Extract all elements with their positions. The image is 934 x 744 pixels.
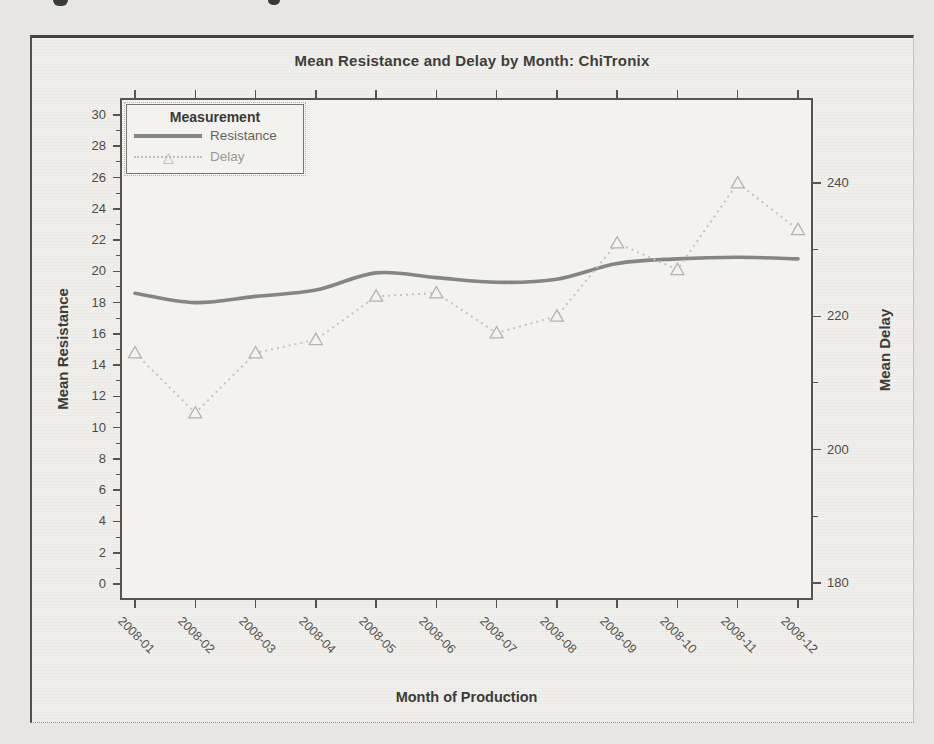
x-axis-tick: [315, 600, 317, 608]
left-axis-minor-tick: [116, 255, 120, 256]
x-axis-top-tick: [436, 90, 438, 98]
left-axis-title: Mean Resistance: [54, 288, 71, 410]
left-axis-minor-tick: [116, 505, 120, 506]
x-axis-tick: [797, 600, 799, 608]
left-tick-label: 4: [66, 512, 106, 530]
right-axis-tick: [813, 449, 821, 451]
delay-line-swatch: △: [134, 156, 202, 158]
delay-triangle-marker: [671, 263, 684, 274]
left-axis-tick: [113, 583, 120, 585]
left-axis-tick: [113, 396, 120, 398]
left-axis-tick: [113, 521, 120, 523]
delay-triangle-marker: [731, 176, 744, 187]
left-axis-tick: [113, 489, 120, 491]
x-axis-tick: [616, 600, 618, 608]
left-axis-minor-tick: [116, 130, 120, 131]
x-axis-tick: [677, 600, 679, 608]
delay-triangle-marker: [129, 346, 142, 357]
left-axis-tick: [113, 302, 120, 304]
x-axis-top-tick: [677, 90, 679, 98]
left-tick-label: 6: [66, 481, 106, 499]
legend-entry-label: Delay: [210, 149, 245, 164]
delay-triangle-marker: [550, 310, 563, 321]
left-tick-label: 2: [66, 544, 106, 562]
x-axis-top-tick: [375, 90, 377, 98]
figure-page: Mean Resistance and Delay by Month: ChiT…: [0, 0, 934, 744]
delay-triangle-marker: [370, 290, 383, 301]
legend-title: Measurement: [127, 109, 303, 125]
left-axis-minor-tick: [116, 443, 120, 444]
left-axis-tick: [113, 458, 120, 460]
legend: Measurement Resistance △ Delay: [126, 104, 304, 174]
left-axis-minor-tick: [116, 224, 120, 225]
chart-title: Mean Resistance and Delay by Month: ChiT…: [30, 52, 914, 69]
left-axis-tick: [113, 364, 120, 366]
x-axis-top-tick: [315, 90, 317, 98]
delay-triangle-marker: [490, 326, 503, 337]
left-axis-minor-tick: [116, 193, 120, 194]
x-axis-tick: [255, 600, 257, 608]
cropped-caption-remnant: [53, 0, 68, 6]
left-tick-label: 0: [66, 575, 106, 593]
left-axis-minor-tick: [116, 380, 120, 381]
right-axis-tick: [813, 582, 821, 584]
left-axis-tick: [113, 239, 120, 241]
left-axis-tick: [113, 271, 120, 273]
x-axis-top-tick: [255, 90, 257, 98]
x-axis-title: Month of Production: [120, 689, 813, 705]
legend-entry-delay: △ Delay: [127, 146, 303, 167]
x-axis-top-tick: [616, 90, 618, 98]
x-axis-tick: [556, 600, 558, 608]
right-tick-label: 180: [827, 574, 871, 592]
x-axis-top-tick: [797, 90, 799, 98]
right-axis-minor-tick: [813, 516, 818, 517]
left-tick-label: 28: [66, 137, 106, 155]
left-tick-label: 14: [66, 356, 106, 374]
left-tick-label: 22: [66, 231, 106, 249]
left-axis-minor-tick: [116, 349, 120, 350]
left-axis-minor-tick: [116, 412, 120, 413]
x-axis-top-tick: [195, 90, 197, 98]
left-axis-tick: [113, 427, 120, 429]
right-tick-label: 240: [827, 174, 871, 192]
left-tick-label: 16: [66, 325, 106, 343]
legend-entry-resistance: Resistance: [127, 125, 303, 146]
resistance-line: [135, 257, 798, 302]
left-tick-label: 30: [66, 106, 106, 124]
delay-triangle-marker: [309, 333, 322, 344]
delay-triangle-marker: [791, 223, 804, 234]
left-axis-tick: [113, 145, 120, 147]
right-axis-minor-tick: [813, 382, 818, 383]
left-axis-minor-tick: [116, 474, 120, 475]
left-axis-tick: [113, 333, 120, 335]
x-axis-top-tick: [134, 90, 136, 98]
left-axis-minor-tick: [116, 568, 120, 569]
left-tick-label: 18: [66, 294, 106, 312]
x-axis-tick: [375, 600, 377, 608]
left-tick-label: 24: [66, 200, 106, 218]
x-axis-tick: [737, 600, 739, 608]
right-tick-label: 220: [827, 307, 871, 325]
left-axis-minor-tick: [116, 537, 120, 538]
x-axis-tick: [436, 600, 438, 608]
left-axis-minor-tick: [116, 318, 120, 319]
cropped-caption-remnant: [268, 0, 280, 5]
left-axis-tick: [113, 177, 120, 179]
x-axis-tick: [134, 600, 136, 608]
left-axis-tick: [113, 552, 120, 554]
delay-triangle-marker: [611, 236, 624, 247]
legend-entry-label: Resistance: [210, 128, 277, 143]
left-axis-tick: [113, 114, 120, 116]
left-axis-minor-tick: [116, 161, 120, 162]
right-axis-minor-tick: [813, 249, 818, 250]
x-axis-tick: [195, 600, 197, 608]
delay-triangle-marker: [430, 286, 443, 297]
left-tick-label: 20: [66, 262, 106, 280]
triangle-marker-icon: △: [163, 150, 174, 164]
x-axis-top-tick: [496, 90, 498, 98]
right-axis-tick: [813, 182, 821, 184]
left-tick-label: 26: [66, 169, 106, 187]
x-axis-top-tick: [737, 90, 739, 98]
left-tick-label: 8: [66, 450, 106, 468]
right-axis-tick: [813, 316, 821, 318]
